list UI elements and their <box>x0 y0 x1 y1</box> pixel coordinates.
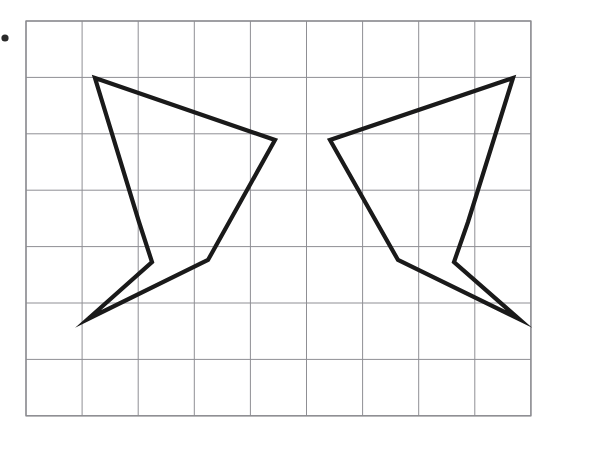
figure-background <box>0 0 590 468</box>
geometry-figure <box>0 0 590 468</box>
margin-marks <box>1 34 8 41</box>
figure-canvas <box>0 0 590 468</box>
margin-dot <box>1 34 8 41</box>
